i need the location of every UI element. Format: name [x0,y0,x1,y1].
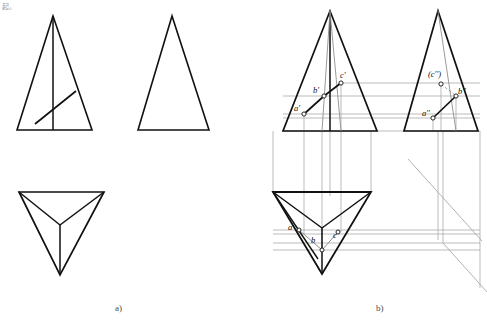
surface-trace-left [273,192,318,259]
point-marker-a [297,228,301,232]
pyramid-edge-right [60,192,104,225]
point-marker-a-double-prime [431,116,435,120]
point-marker-a-prime [302,112,306,116]
surface-segment-bc [324,83,341,96]
part-b-front-view: a' b' c' [283,11,377,131]
label-c: c [333,230,337,240]
point-marker-b-prime [322,94,326,98]
pyramid-edge-left [273,192,322,228]
caption-part-b: b) [376,303,384,313]
label-b: b [311,235,315,245]
part-a-front-view [17,16,92,130]
label-c-prime: c' [340,70,346,80]
surface-line [35,91,76,124]
pyramid-edge-left [19,192,60,225]
triangle-outline [138,16,209,130]
label-b-prime: b' [313,85,319,95]
pyramid-edge-right [322,192,371,228]
mitre-line-45deg [408,159,482,241]
part-a-top-view [19,192,104,275]
leader-line-c-hidden [441,84,456,96]
part-a-side-view [138,16,209,130]
triangle-outline [17,16,92,130]
technical-drawing-figure: 起。 [0,0,487,324]
triangle-outline [19,192,104,275]
caption-part-a: a) [115,303,122,313]
label-c-double-prime: (c'') [428,69,441,79]
part-a-group [17,16,209,275]
drawing-canvas: a' b' c' a'' b'' (c'') [0,0,487,324]
part-b-group: a' b' c' a'' b'' (c'') [273,11,487,292]
label-a-prime: a' [294,103,300,113]
surface-segment-ab [304,96,324,114]
label-a-double-prime: a'' [422,108,430,118]
label-a: a [288,222,292,232]
point-marker-b [320,248,324,252]
point-marker-c-prime [339,81,343,85]
label-b-double-prime: b'' [458,86,466,96]
point-marker-c-double-prime [439,82,443,86]
